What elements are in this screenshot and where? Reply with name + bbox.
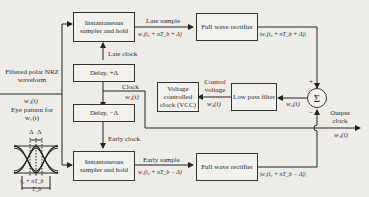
vcc-label: Voltage controlled clock (VCC)	[158, 85, 198, 109]
summer-node: Σ	[307, 88, 327, 108]
rectifier-early-block: Full wave rectifier	[196, 153, 258, 181]
eye-period-label: T_b	[32, 185, 41, 193]
eye-title: Eye pattern for w₁(t)	[4, 106, 60, 122]
rectifier-late-label: Full wave rectifier	[201, 23, 253, 31]
eye-center-label: τ₀ + nT_b	[20, 177, 44, 185]
output-clock-label: Output clock	[325, 109, 355, 125]
lpf-block: Low pass filter	[231, 83, 277, 111]
input-signal: w₁(t)	[24, 97, 38, 105]
w3-label: w₃(t)	[207, 100, 221, 108]
eye-delta-left: Δ	[29, 128, 34, 136]
delay-plus-block: Delay, +Δ	[73, 64, 135, 82]
delay-plus-label: Delay, +Δ	[90, 69, 118, 77]
late-rect-expr: |w₁(t₀ + nT_b + Δ)|	[259, 30, 306, 38]
sampler-late-label: Instantaneous sampler and hold	[74, 19, 134, 35]
early-sample-label: Early sample	[143, 156, 180, 164]
w2-label: w₂(t)	[286, 100, 300, 108]
eye-delta-right: Δ	[37, 128, 42, 136]
late-sample-label: Late sample	[146, 17, 180, 25]
sampler-early-label: Instantaneous sampler and hold	[74, 158, 134, 174]
control-voltage-label: Control voltage	[201, 78, 229, 94]
sampler-early-block: Instantaneous sampler and hold	[73, 151, 135, 181]
plus-sign: +	[309, 78, 313, 86]
sampler-late-block: Instantaneous sampler and hold	[73, 12, 135, 42]
clock-label: Clock	[122, 83, 139, 91]
lpf-label: Low pass filter	[233, 93, 275, 101]
early-rect-expr: |w₁(t₀ + nT_b − Δ)|	[259, 170, 306, 178]
late-sample-expr: w₁(t₀ + nT_b + Δ)	[138, 30, 182, 38]
early-sample-expr: w₁(t₀ + nT_b − Δ)	[138, 168, 182, 176]
sigma-icon: Σ	[314, 92, 320, 104]
rectifier-late-block: Full wave rectifier	[196, 13, 258, 41]
delay-minus-block: Delay, −Δ	[73, 104, 135, 122]
clock-signal: w₄(t)	[125, 93, 139, 101]
delay-minus-label: Delay, −Δ	[90, 109, 118, 117]
early-clock-label: Early clock	[108, 135, 140, 143]
minus-sign: −	[309, 109, 313, 117]
rectifier-early-label: Full wave rectifier	[201, 163, 253, 171]
output-signal: w₄(t)	[334, 131, 348, 139]
input-title: Filtered polar NRZ waveform	[4, 68, 60, 84]
late-clock-label: Late clock	[108, 50, 137, 58]
vcc-block: Voltage controlled clock (VCC)	[157, 82, 199, 112]
